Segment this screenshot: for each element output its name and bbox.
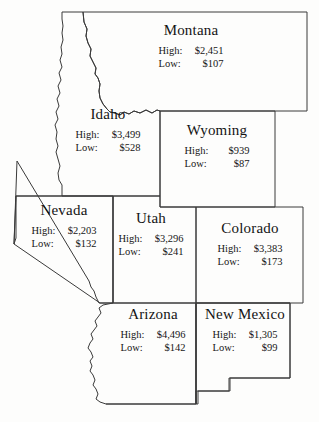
state-stats-new-mexico: High:$1,305 Low:$99 xyxy=(199,328,291,355)
low-value: $173 xyxy=(245,255,283,268)
low-value: $142 xyxy=(148,341,186,354)
state-name-montana: Montana xyxy=(135,23,247,39)
state-stats-nevada: High:$2,203 Low:$132 xyxy=(16,224,112,251)
stat-row-high: High:$1,305 xyxy=(199,328,291,341)
low-label: Low: xyxy=(185,157,212,170)
high-label: High: xyxy=(32,224,59,237)
stat-row-high: High:$2,203 xyxy=(16,224,112,237)
high-value: $3,296 xyxy=(146,232,184,245)
high-value: $1,305 xyxy=(240,328,278,341)
low-value: $99 xyxy=(240,341,278,354)
stat-row-low: Low:$528 xyxy=(58,141,158,154)
state-stats-idaho: High:$3,499 Low:$528 xyxy=(58,128,158,155)
stat-row-low: Low:$87 xyxy=(163,157,271,170)
state-name-arizona: Arizona xyxy=(110,307,196,323)
state-name-nevada: Nevada xyxy=(16,203,112,219)
stat-row-low: Low:$107 xyxy=(135,57,247,70)
high-value: $3,383 xyxy=(245,242,283,255)
low-label: Low: xyxy=(218,255,245,268)
low-value: $241 xyxy=(146,245,184,258)
state-label-new-mexico: New Mexico High:$1,305 Low:$99 xyxy=(199,307,291,355)
state-map: Montana High:$2,451 Low:$107 Idaho High:… xyxy=(0,0,319,422)
state-name-new-mexico: New Mexico xyxy=(199,307,291,323)
stat-row-low: Low:$132 xyxy=(16,237,112,250)
low-value: $107 xyxy=(186,57,224,70)
high-label: High: xyxy=(185,144,212,157)
state-name-idaho: Idaho xyxy=(58,107,158,123)
high-label: High: xyxy=(218,242,245,255)
state-stats-wyoming: High:$939 Low:$87 xyxy=(163,144,271,171)
low-label: Low: xyxy=(76,141,103,154)
high-label: High: xyxy=(119,232,146,245)
state-name-wyoming: Wyoming xyxy=(163,123,271,139)
low-value: $87 xyxy=(212,157,250,170)
high-label: High: xyxy=(76,128,103,141)
stat-row-low: Low:$173 xyxy=(198,255,302,268)
high-value: $4,496 xyxy=(148,328,186,341)
high-value: $939 xyxy=(212,144,250,157)
stat-row-high: High:$2,451 xyxy=(135,44,247,57)
low-label: Low: xyxy=(213,341,240,354)
stat-row-low: Low:$142 xyxy=(110,341,196,354)
low-label: Low: xyxy=(32,237,59,250)
state-label-utah: Utah High:$3,296 Low:$241 xyxy=(106,211,196,259)
state-stats-utah: High:$3,296 Low:$241 xyxy=(106,232,196,259)
stat-row-high: High:$4,496 xyxy=(110,328,196,341)
state-stats-colorado: High:$3,383 Low:$173 xyxy=(198,242,302,269)
state-stats-montana: High:$2,451 Low:$107 xyxy=(135,44,247,71)
stat-row-high: High:$3,296 xyxy=(106,232,196,245)
low-label: Low: xyxy=(119,245,146,258)
low-value: $132 xyxy=(59,237,97,250)
state-name-colorado: Colorado xyxy=(198,221,302,237)
high-label: High: xyxy=(121,328,148,341)
state-name-utah: Utah xyxy=(106,211,196,227)
high-value: $3,499 xyxy=(103,128,141,141)
stat-row-low: Low:$241 xyxy=(106,245,196,258)
state-label-wyoming: Wyoming High:$939 Low:$87 xyxy=(163,123,271,171)
high-value: $2,203 xyxy=(59,224,97,237)
stat-row-high: High:$3,383 xyxy=(198,242,302,255)
stat-row-low: Low:$99 xyxy=(199,341,291,354)
stat-row-high: High:$939 xyxy=(163,144,271,157)
state-label-arizona: Arizona High:$4,496 Low:$142 xyxy=(110,307,196,355)
stat-row-high: High:$3,499 xyxy=(58,128,158,141)
low-value: $528 xyxy=(103,141,141,154)
state-label-montana: Montana High:$2,451 Low:$107 xyxy=(135,23,247,71)
state-stats-arizona: High:$4,496 Low:$142 xyxy=(110,328,196,355)
state-label-nevada: Nevada High:$2,203 Low:$132 xyxy=(16,203,112,251)
high-value: $2,451 xyxy=(186,44,224,57)
high-label: High: xyxy=(213,328,240,341)
state-label-colorado: Colorado High:$3,383 Low:$173 xyxy=(198,221,302,269)
state-label-idaho: Idaho High:$3,499 Low:$528 xyxy=(58,107,158,155)
high-label: High: xyxy=(159,44,186,57)
low-label: Low: xyxy=(159,57,186,70)
low-label: Low: xyxy=(121,341,148,354)
